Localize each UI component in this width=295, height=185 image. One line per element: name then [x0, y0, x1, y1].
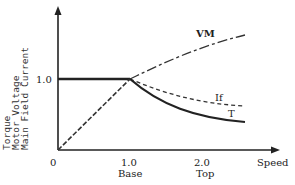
- series-label-t: T: [228, 108, 235, 119]
- y-axis-arrow-icon: [55, 6, 62, 15]
- x-tick-sublabel-top: Top: [196, 168, 214, 179]
- y-tick-label: 1.0: [36, 74, 52, 85]
- y-axis-label-field-current: Main Field Current: [19, 47, 30, 150]
- x-axis-arrow-icon: [271, 147, 280, 154]
- series-vm-ramp: [58, 79, 130, 150]
- series-label-vm: VM: [195, 28, 215, 39]
- x-tick-label-1: 1.0: [121, 157, 137, 168]
- x-tick-label-2: 2.0: [194, 157, 210, 168]
- x-axis-label: Speed: [257, 157, 289, 168]
- x-tick-sublabel-base: Base: [118, 168, 142, 179]
- origin-label: 0: [50, 157, 56, 168]
- chart-canvas: Torque Motor Voltage Main Field Current …: [0, 0, 295, 185]
- series-label-if: If: [215, 92, 224, 103]
- series-vm: [130, 35, 245, 79]
